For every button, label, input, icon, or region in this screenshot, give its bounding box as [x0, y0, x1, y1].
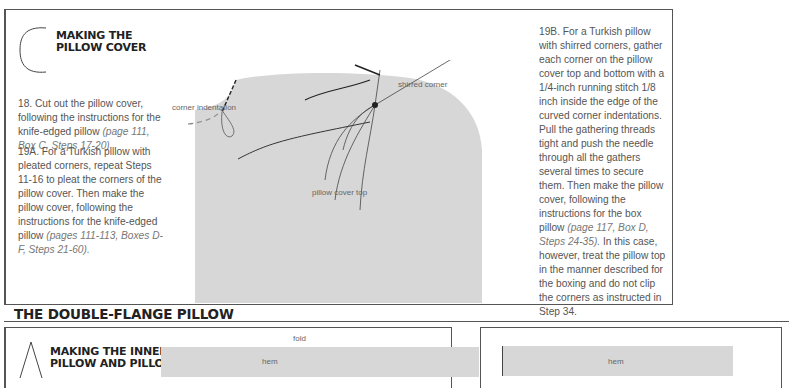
heading-line-2: PILLOW AND PILLOW — [50, 358, 176, 370]
heading-making-inner-pillow: MAKING THE INNER PILLOW AND PILLOW — [50, 346, 176, 370]
step-19a-text: 19A. For a Turkish pillow with pleated c… — [18, 145, 168, 257]
inner-pillow-fabric-left — [161, 347, 479, 377]
label-fold: fold — [293, 334, 306, 343]
letter-a-icon — [16, 338, 46, 378]
step-19b-text: 19B. For a Turkish pillow with shirred c… — [539, 25, 667, 319]
label-pillow-cover-top: pillow cover top — [312, 188, 367, 197]
section-divider — [4, 321, 789, 322]
section-title-double-flange-pillow: THE DOUBLE-FLANGE PILLOW — [14, 306, 234, 322]
heading-making-pillow-cover: MAKING THE PILLOW COVER — [56, 30, 146, 54]
heading-line-2: PILLOW COVER — [56, 42, 146, 54]
label-hem-left: hem — [262, 357, 278, 366]
label-shirred-corner: shirred corner — [398, 80, 447, 89]
label-corner-indentation: corner indentation — [172, 103, 236, 112]
letter-c-icon — [16, 24, 52, 76]
step-19a-body: 19A. For a Turkish pillow with pleated c… — [18, 146, 162, 241]
step-19b-body-continued: In this case, however, treat the pillow … — [539, 236, 665, 317]
pillow-cover-illustration — [150, 60, 490, 303]
label-hem-right: hem — [608, 357, 624, 366]
step-19b-body: 19B. For a Turkish pillow with shirred c… — [539, 26, 664, 233]
